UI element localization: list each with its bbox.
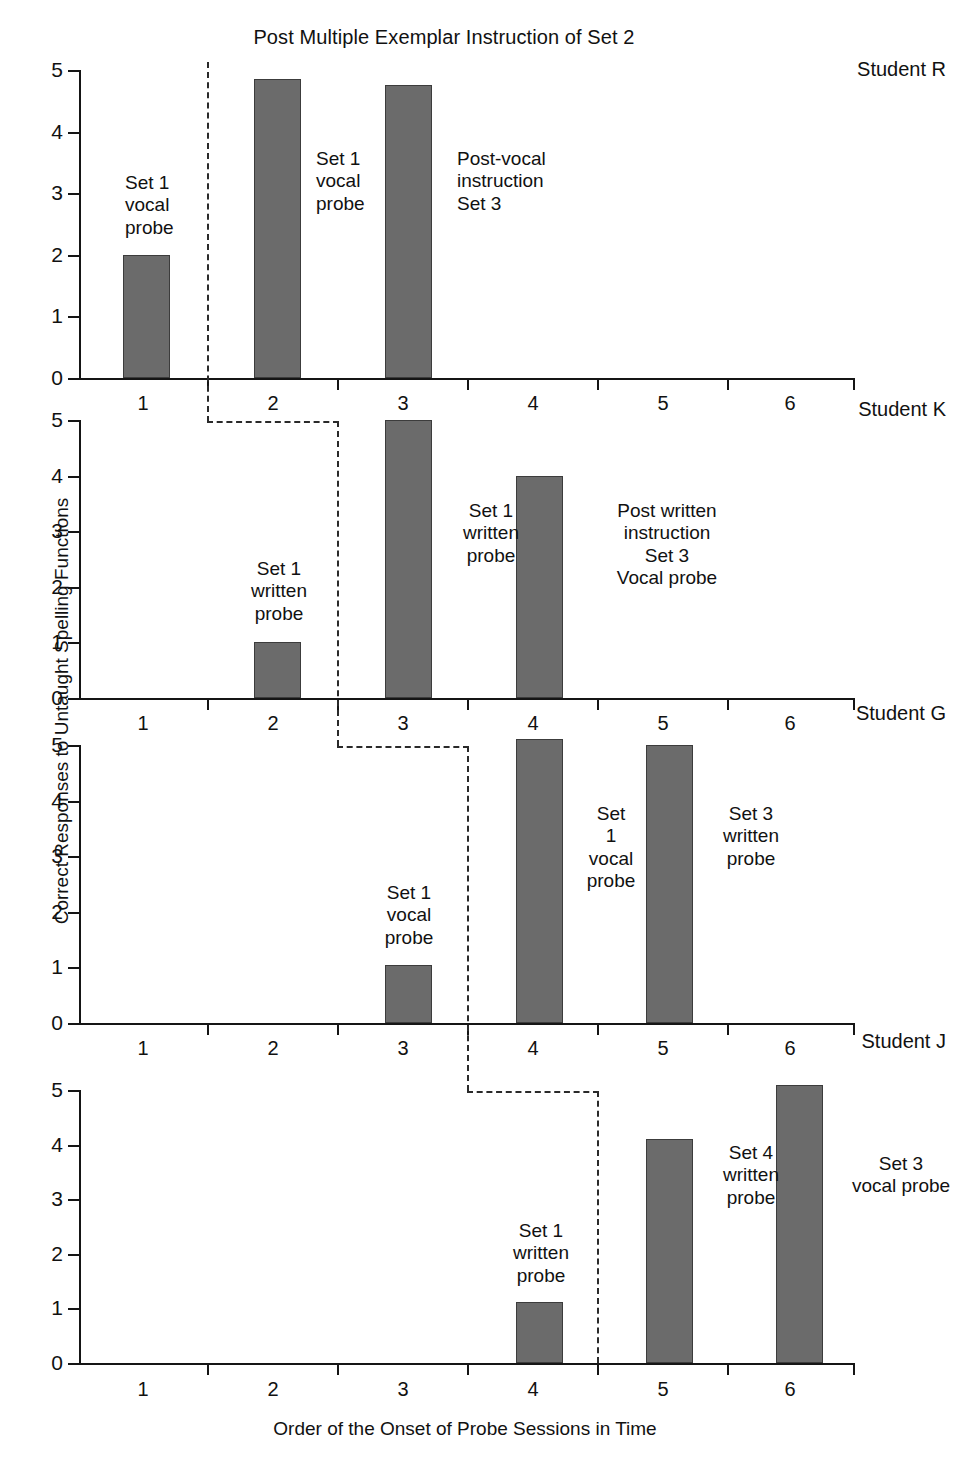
y-tick-label-5: 5: [33, 734, 63, 755]
y-tick-label-4: 4: [33, 790, 63, 811]
panel-label-student-j: Student J: [861, 1030, 946, 1053]
phase-line-segment-2: [207, 421, 339, 423]
y-tick-2: [68, 587, 79, 589]
y-tick-4: [68, 801, 79, 803]
x-tick-label-1: 1: [123, 1378, 163, 1401]
x-tick-label-5: 5: [643, 1378, 683, 1401]
bar-k-session-3: [385, 420, 432, 698]
x-tick: [853, 698, 855, 710]
y-tick-5: [68, 1090, 79, 1092]
x-tick-label-3: 3: [383, 392, 423, 415]
plot-area-student-r: 5 4 3 2 1 0 1 2 3 4 5 6: [79, 70, 855, 378]
y-tick-label-2: 2: [33, 1243, 63, 1264]
y-tick-label-2: 2: [33, 244, 63, 265]
x-tick-label-5: 5: [643, 1037, 683, 1060]
x-tick-label-4: 4: [513, 1037, 553, 1060]
y-tick-label-5: 5: [33, 1079, 63, 1100]
annotation-g-1: Set 1 vocal probe: [359, 882, 459, 949]
plot-area-student-k: 5 4 3 2 1 0 1 2 3 4 5 6: [79, 420, 855, 698]
x-tick-label-5: 5: [643, 712, 683, 735]
x-tick: [207, 698, 209, 710]
annotation-j-1: Set 1 written probe: [491, 1220, 591, 1287]
x-tick: [337, 1363, 339, 1375]
y-tick-2: [68, 255, 79, 257]
x-tick-label-6: 6: [770, 1037, 810, 1060]
x-tick: [853, 378, 855, 390]
x-tick-label-1: 1: [123, 1037, 163, 1060]
y-tick-label-4: 4: [33, 121, 63, 142]
x-tick: [207, 1023, 209, 1035]
bar-r-session-1: [123, 255, 170, 378]
y-tick-label-5: 5: [33, 409, 63, 430]
y-tick-5: [68, 70, 79, 72]
phase-line-segment-5: [467, 746, 469, 1091]
bar-j-session-4: [516, 1302, 563, 1363]
y-tick-5: [68, 420, 79, 422]
y-tick-label-5: 5: [33, 59, 63, 80]
x-tick-label-2: 2: [253, 1378, 293, 1401]
x-tick-label-2: 2: [253, 1037, 293, 1060]
x-tick: [597, 378, 599, 390]
phase-line-segment-3: [337, 421, 339, 746]
y-tick-4: [68, 1145, 79, 1147]
y-tick-label-3: 3: [33, 845, 63, 866]
annotation-r-1: Set 1 vocal probe: [125, 172, 174, 239]
panel-label-student-g: Student G: [856, 702, 946, 725]
y-tick-label-0: 0: [33, 687, 63, 708]
annotation-g-2: Set 1 vocal probe: [571, 803, 651, 893]
x-tick-label-2: 2: [253, 712, 293, 735]
x-tick: [853, 1023, 855, 1035]
y-tick-0: [68, 1023, 79, 1025]
x-axis-title: Order of the Onset of Probe Sessions in …: [75, 1418, 855, 1440]
phase-line-segment-4: [337, 746, 469, 748]
y-tick-0: [68, 698, 79, 700]
y-tick-label-2: 2: [33, 901, 63, 922]
y-tick-4: [68, 132, 79, 134]
y-tick-3: [68, 531, 79, 533]
x-tick: [727, 1023, 729, 1035]
y-axis-title: Correct Responses to Untaught Spelling F…: [51, 391, 73, 1031]
y-tick-1: [68, 967, 79, 969]
x-tick: [467, 1363, 469, 1375]
x-tick: [597, 1023, 599, 1035]
y-tick-2: [68, 912, 79, 914]
x-tick-label-4: 4: [513, 392, 553, 415]
annotation-k-2: Set 1 written probe: [441, 500, 541, 567]
x-tick: [597, 698, 599, 710]
y-tick-label-2: 2: [33, 576, 63, 597]
y-tick-label-3: 3: [33, 182, 63, 203]
y-axis-line: [79, 70, 81, 380]
x-tick: [727, 1363, 729, 1375]
y-tick-label-1: 1: [33, 956, 63, 977]
bar-g-session-5: [646, 745, 693, 1023]
x-tick-label-3: 3: [383, 712, 423, 735]
y-tick-2: [68, 1254, 79, 1256]
y-tick-0: [68, 378, 79, 380]
y-tick-label-0: 0: [33, 367, 63, 388]
y-tick-4: [68, 476, 79, 478]
y-tick-3: [68, 1199, 79, 1201]
annotation-j-2: Set 4 written probe: [701, 1142, 801, 1209]
phase-line-segment-7: [597, 1091, 599, 1363]
y-tick-5: [68, 745, 79, 747]
phase-line-segment-6: [467, 1091, 599, 1093]
panel-label-student-r: Student R: [857, 58, 946, 81]
y-tick-label-3: 3: [33, 520, 63, 541]
x-tick: [337, 1023, 339, 1035]
x-tick: [207, 1363, 209, 1375]
y-tick-label-1: 1: [33, 1297, 63, 1318]
y-tick-label-1: 1: [33, 631, 63, 652]
y-tick-3: [68, 193, 79, 195]
y-tick-label-1: 1: [33, 305, 63, 326]
x-tick-label-1: 1: [123, 392, 163, 415]
y-tick-label-4: 4: [33, 465, 63, 486]
x-tick-label-4: 4: [513, 1378, 553, 1401]
x-tick: [597, 1363, 599, 1375]
y-tick-label-4: 4: [33, 1134, 63, 1155]
y-axis-line: [79, 420, 81, 700]
x-tick: [727, 698, 729, 710]
x-tick-label-4: 4: [513, 712, 553, 735]
x-tick-label-6: 6: [770, 392, 810, 415]
x-tick: [467, 378, 469, 390]
annotation-g-3: Set 3 written probe: [701, 803, 801, 870]
